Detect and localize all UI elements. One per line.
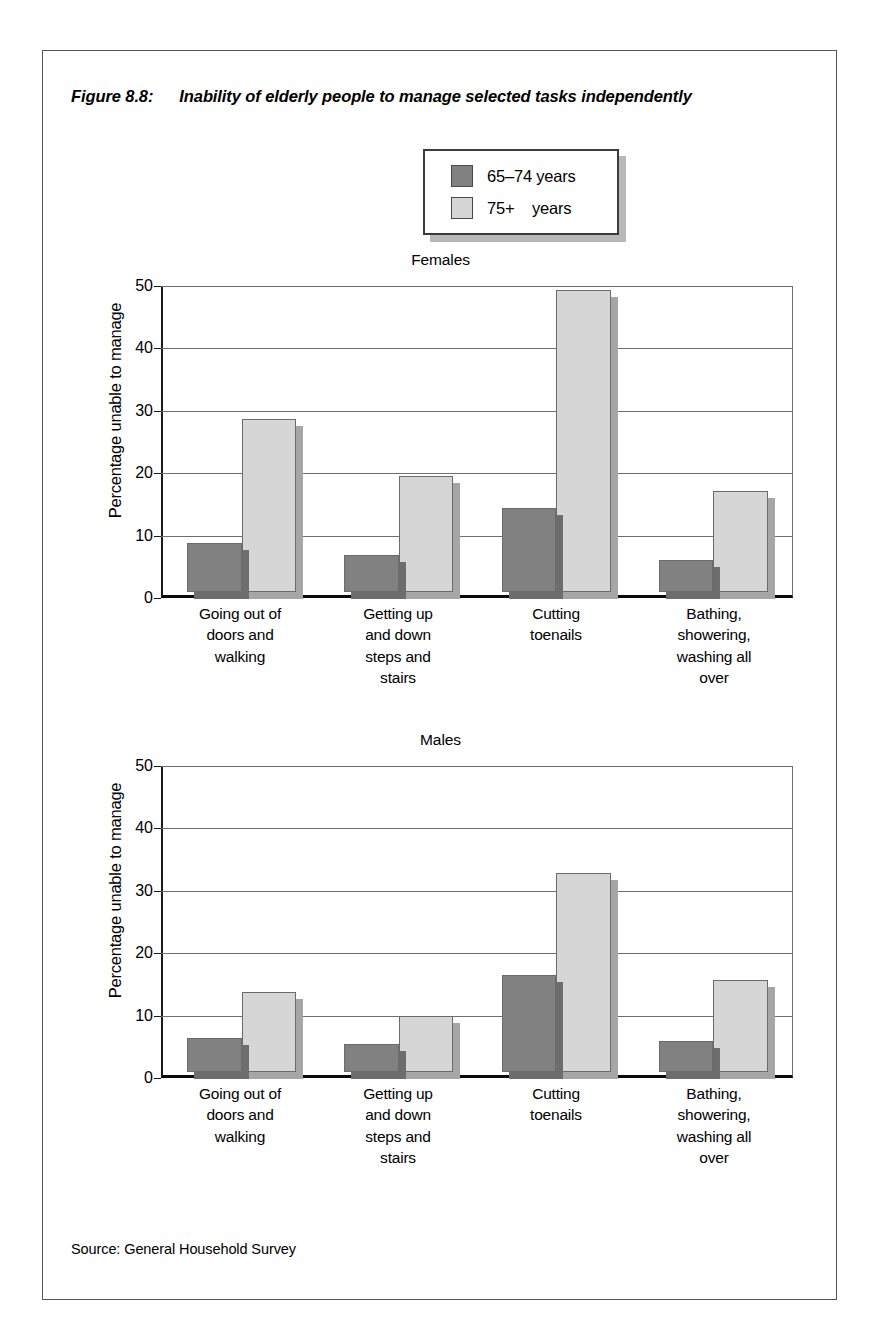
bar-face [502, 508, 557, 592]
plot-outer-males: 01020304050 [161, 766, 793, 1078]
bar-face [659, 560, 714, 592]
gridline [161, 348, 793, 349]
category-label-line: Bathing, [635, 603, 793, 624]
category-label-line: toenails [477, 624, 635, 645]
category-label: Going out ofdoors andwalking [161, 1083, 319, 1147]
panel-title-males: Males [43, 731, 838, 749]
bars-layer-females [165, 287, 791, 592]
category-label-line: showering, [635, 624, 793, 645]
category-label: Bathing,showering,washing allover [635, 1083, 793, 1169]
category-label-line: Bathing, [635, 1083, 793, 1104]
plot-outer-females: 01020304050 [161, 286, 793, 598]
category-label-line: steps and [319, 646, 477, 667]
legend-label-75-plus: 75+ years [487, 199, 571, 218]
bar-age-65-74 [502, 508, 557, 592]
bar-age-75-plus [713, 980, 768, 1072]
legend-item-75-plus: 75+ years [451, 192, 617, 224]
bar-age-65-74 [659, 1041, 714, 1072]
y-tick-mark [154, 411, 161, 412]
bar-face [242, 419, 297, 592]
category-label-line: Cutting [477, 1083, 635, 1104]
category-label: Getting upand downsteps andstairs [319, 1083, 477, 1169]
category-label-line: steps and [319, 1126, 477, 1147]
bar-group [480, 767, 637, 1072]
category-label: Getting upand downsteps andstairs [319, 603, 477, 689]
bar-face [556, 873, 611, 1072]
figure-number: Figure 8.8: [71, 87, 153, 105]
y-tick-label: 50 [115, 758, 153, 774]
bar-face [713, 491, 768, 592]
chart-legend: 65–74 years 75+ years [423, 149, 619, 235]
category-label-line: showering, [635, 1104, 793, 1125]
bar-face [659, 1041, 714, 1072]
plot-area-females [161, 286, 793, 598]
y-tick-label: 0 [115, 590, 153, 606]
figure-title-text: Inability of elderly people to manage se… [179, 87, 691, 105]
legend-item-65-74: 65–74 years [451, 160, 617, 192]
category-label-line: Cutting [477, 603, 635, 624]
category-label-line: walking [161, 646, 319, 667]
bar-face [399, 1016, 454, 1072]
bar-face [242, 992, 297, 1072]
y-tick-mark [154, 828, 161, 829]
category-label-line: walking [161, 1126, 319, 1147]
y-tick-mark [154, 953, 161, 954]
category-label-line: doors and [161, 624, 319, 645]
y-tick-label: 40 [115, 340, 153, 356]
gridline [161, 286, 793, 287]
bar-face [344, 555, 399, 592]
category-label-line: toenails [477, 1104, 635, 1125]
panel-title-females: Females [43, 251, 838, 269]
bar-face [713, 980, 768, 1072]
figure-frame: Figure 8.8:Inability of elderly people t… [42, 50, 837, 1300]
bar-age-65-74 [659, 560, 714, 592]
bar-group [165, 287, 322, 592]
bar-group [637, 287, 794, 592]
bar-age-75-plus [556, 873, 611, 1072]
y-tick-label: 30 [115, 883, 153, 899]
gridline [161, 766, 793, 767]
y-tick-mark [154, 286, 161, 287]
category-label-line: washing all [635, 1126, 793, 1147]
category-labels-males: Going out ofdoors andwalkingGetting upan… [161, 1083, 793, 1193]
bar-group [480, 287, 637, 592]
y-tick-mark [154, 536, 161, 537]
plot-area-males [161, 766, 793, 1078]
bar-age-65-74 [344, 555, 399, 592]
category-label-line: Going out of [161, 603, 319, 624]
bar-face [399, 476, 454, 592]
bar-age-75-plus [399, 476, 454, 592]
category-labels-females: Going out ofdoors andwalkingGetting upan… [161, 603, 793, 713]
y-tick-mark [154, 598, 161, 599]
y-tick-mark [154, 1016, 161, 1017]
bar-age-65-74 [344, 1044, 399, 1072]
bar-face [344, 1044, 399, 1072]
y-tick-mark [154, 766, 161, 767]
y-tick-mark [154, 1078, 161, 1079]
bars-layer-males [165, 767, 791, 1072]
legend-box: 65–74 years 75+ years [423, 149, 619, 235]
category-label-line: washing all [635, 646, 793, 667]
legend-swatch-icon-75-plus [451, 197, 473, 219]
category-label-line: stairs [319, 667, 477, 688]
bar-group [165, 767, 322, 1072]
y-tick-label: 0 [115, 1070, 153, 1086]
bar-face [187, 543, 242, 592]
bar-age-65-74 [187, 1038, 242, 1072]
bar-age-75-plus [242, 419, 297, 592]
y-tick-mark [154, 473, 161, 474]
category-label-line: Getting up [319, 603, 477, 624]
page-title: Figure 8.8:Inability of elderly people t… [71, 87, 692, 106]
category-label-line: doors and [161, 1104, 319, 1125]
bar-age-75-plus [399, 1016, 454, 1072]
category-label: Going out ofdoors andwalking [161, 603, 319, 667]
bar-age-75-plus [556, 290, 611, 592]
category-label-line: stairs [319, 1147, 477, 1168]
category-label: Cuttingtoenails [477, 603, 635, 646]
y-tick-label: 20 [115, 945, 153, 961]
bar-group [322, 767, 479, 1072]
gridline [161, 411, 793, 412]
y-tick-label: 30 [115, 403, 153, 419]
y-tick-mark [154, 891, 161, 892]
y-tick-label: 50 [115, 278, 153, 294]
